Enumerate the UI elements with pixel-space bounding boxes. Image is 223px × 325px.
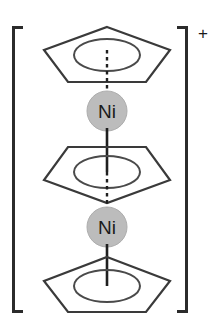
ni-label-bottom: Ni	[98, 217, 116, 238]
chemical-structure-figure: + Ni Ni	[0, 0, 223, 325]
ni-label-top: Ni	[98, 101, 116, 122]
charge-label: +	[198, 24, 208, 43]
bracket-left	[14, 28, 24, 312]
bracket-right	[177, 28, 187, 312]
structure-drawing: + Ni Ni	[0, 0, 223, 325]
metal-center-ni-bottom: Ni	[87, 207, 127, 247]
metal-center-ni-top: Ni	[87, 91, 127, 131]
